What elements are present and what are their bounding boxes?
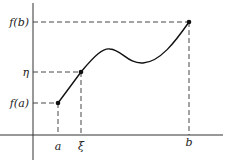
label-xi: ξ (78, 140, 85, 153)
function-curve (58, 22, 189, 103)
point-b-fb (187, 20, 192, 25)
point-xi-eta (79, 70, 84, 75)
label-fb: f(b) (8, 16, 29, 29)
label-fa: f(a) (9, 97, 29, 110)
label-eta: η (22, 66, 29, 79)
ivt-diagram: f(b) η f(a) a ξ b (0, 0, 226, 163)
label-b: b (185, 136, 192, 149)
point-a-fa (56, 101, 61, 106)
label-a: a (55, 140, 62, 153)
